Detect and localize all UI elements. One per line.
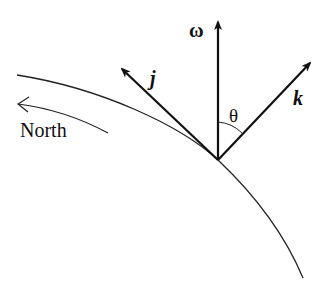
j-label: j bbox=[147, 67, 156, 90]
omega-label: ω bbox=[189, 19, 204, 41]
diagram-canvas: ω j k θ North bbox=[0, 0, 326, 297]
j-vector bbox=[122, 69, 218, 160]
theta-label: θ bbox=[229, 105, 238, 126]
diagram-svg: ω j k θ North bbox=[0, 0, 326, 297]
north-label: North bbox=[20, 119, 67, 141]
k-label: k bbox=[293, 87, 303, 109]
